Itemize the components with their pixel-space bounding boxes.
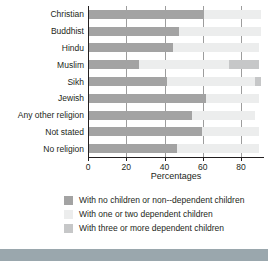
legend-swatch-icon: [64, 196, 73, 205]
chart-legend: With no children or non--dependent child…: [64, 194, 268, 236]
category-label: Sikh: [0, 78, 84, 87]
bar-row: [89, 127, 265, 136]
category-label: Any other religion: [0, 111, 84, 120]
bar-segment: [89, 77, 167, 86]
legend-label: With one or two dependent children: [79, 210, 213, 219]
bar-row: [89, 144, 265, 153]
category-label: No religion: [0, 145, 84, 154]
bar-segment: [89, 111, 192, 120]
category-label: Christian: [0, 10, 84, 19]
legend-label: With no children or non--dependent child…: [79, 196, 244, 205]
x-axis-line: [88, 157, 264, 158]
x-axis-tick: [165, 157, 166, 161]
bar-row: [89, 43, 265, 52]
plot-area: ChristianBuddhistHinduMuslimSikhJewishAn…: [0, 6, 268, 158]
bar-segment: [229, 60, 260, 69]
legend-item: With three or more dependent children: [64, 222, 268, 235]
bar-segment: [89, 127, 202, 136]
bar-segment: [177, 144, 259, 153]
bar-segment: [89, 94, 206, 103]
bar-row: [89, 94, 265, 103]
x-axis-tick: [88, 157, 89, 161]
x-axis-tick: [241, 157, 242, 161]
category-label: Hindu: [0, 44, 84, 53]
chart-container: ChristianBuddhistHinduMuslimSikhJewishAn…: [0, 0, 268, 261]
category-label: Jewish: [0, 94, 84, 103]
bar-segment: [89, 144, 177, 153]
bar-segment: [206, 94, 260, 103]
bar-segment: [89, 27, 179, 36]
bar-segment: [255, 77, 261, 86]
legend-swatch-icon: [64, 210, 73, 219]
legend-swatch-icon: [64, 224, 73, 233]
bar-segment: [192, 111, 255, 120]
bar-segment: [167, 77, 255, 86]
bar-segment: [89, 10, 204, 19]
bar-segment: [202, 127, 259, 136]
bar-row: [89, 60, 265, 69]
legend-label: With three or more dependent children: [79, 224, 224, 233]
bar-segment: [89, 60, 139, 69]
bar-row: [89, 111, 265, 120]
category-label: Not stated: [0, 128, 84, 137]
legend-item: With one or two dependent children: [64, 208, 268, 221]
legend-item: With no children or non--dependent child…: [64, 194, 268, 207]
bar-segment: [179, 27, 261, 36]
bar-row: [89, 77, 265, 86]
category-axis-labels: ChristianBuddhistHinduMuslimSikhJewishAn…: [0, 6, 84, 158]
bar-row: [89, 10, 265, 19]
category-label: Muslim: [0, 61, 84, 70]
bar-row: [89, 27, 265, 36]
bar-segment: [89, 43, 173, 52]
footer-band: [0, 249, 268, 261]
bar-segment: [139, 60, 229, 69]
x-axis-tick: [126, 157, 127, 161]
x-axis-tick: [203, 157, 204, 161]
bars-region: 020406080: [88, 6, 264, 158]
bar-segment: [173, 43, 259, 52]
x-axis-title: Percentages: [88, 171, 264, 181]
bar-segment: [204, 10, 261, 19]
category-label: Buddhist: [0, 27, 84, 36]
